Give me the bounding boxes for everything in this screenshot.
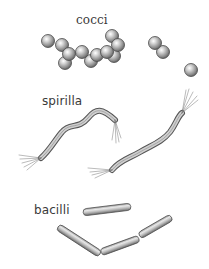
bacillus-single	[83, 203, 131, 216]
cocci-cluster	[42, 30, 125, 70]
spirillum-right	[88, 89, 198, 178]
bacteria-drawing	[0, 0, 209, 269]
cocci-pair	[149, 37, 170, 59]
bacilli-chain	[56, 214, 173, 257]
coccus-single	[185, 64, 198, 77]
spirillum-left	[19, 111, 121, 170]
